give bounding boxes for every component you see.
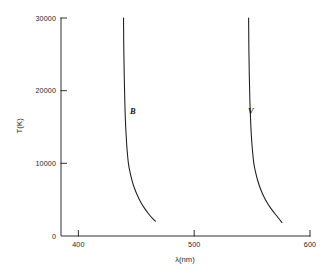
axes-frame <box>61 18 310 236</box>
x-tick-label-600: 600 <box>294 241 326 248</box>
y-axis-title: T(K) <box>16 103 24 149</box>
figure-container: 30000 20000 10000 0 400 500 600 T(K) λ(n… <box>0 0 329 276</box>
axis-spines <box>61 18 310 236</box>
y-tick-label-20000: 20000 <box>4 87 56 94</box>
data-series-group <box>124 18 282 223</box>
curve-label-b: B <box>130 108 136 116</box>
curve-b <box>124 18 156 221</box>
x-axis-ticks <box>78 231 310 237</box>
x-tick-label-500: 500 <box>178 241 210 248</box>
x-tick-label-400: 400 <box>62 241 94 248</box>
x-axis-title: λ(nm) <box>155 256 215 264</box>
curve-v <box>249 18 282 223</box>
y-tick-label-0: 0 <box>4 233 56 240</box>
y-tick-label-10000: 10000 <box>4 160 56 167</box>
y-tick-label-30000: 30000 <box>4 15 56 22</box>
curve-label-v: V <box>248 108 254 116</box>
y-axis-ticks <box>61 18 67 163</box>
